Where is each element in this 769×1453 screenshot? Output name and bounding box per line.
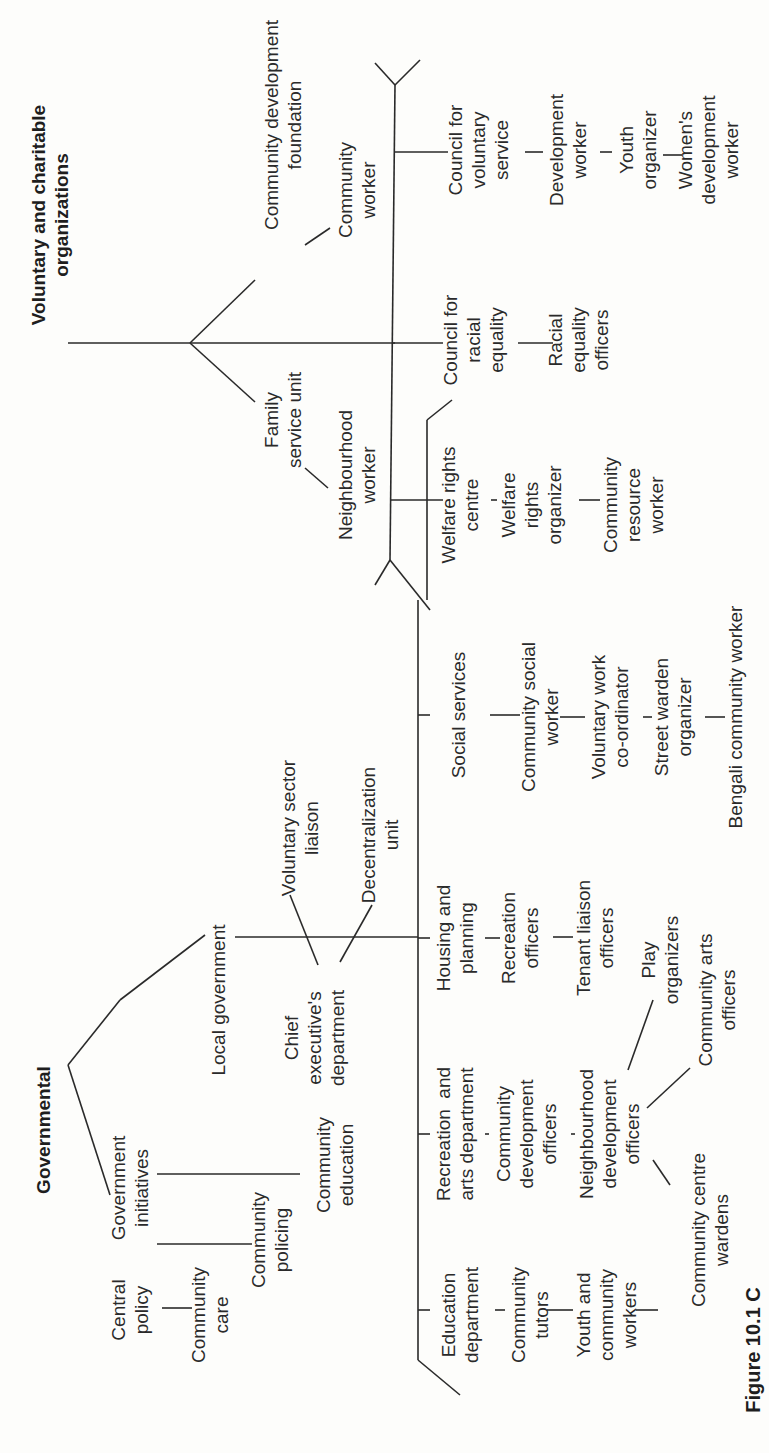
svg-text:service: service bbox=[491, 120, 512, 180]
svg-text:Recreation: Recreation bbox=[498, 892, 519, 984]
svg-text:worker: worker bbox=[646, 476, 667, 535]
svg-text:Community: Community bbox=[600, 456, 621, 553]
svg-text:Women's: Women's bbox=[675, 111, 696, 189]
svg-text:Voluntary and charitable: Voluntary and charitable bbox=[28, 105, 49, 325]
node-voluntary-sector-liaison: Voluntary sector liaison bbox=[278, 759, 322, 896]
svg-text:Tenant liaison: Tenant liaison bbox=[573, 880, 594, 996]
svg-text:Community development: Community development bbox=[261, 19, 282, 230]
node-recreation-arts-department: Recreation and arts department bbox=[433, 1067, 477, 1201]
node-family-service-unit: Family service unit bbox=[261, 371, 305, 468]
node-welfare-rights-centre: Welfare rights centre bbox=[438, 447, 482, 564]
svg-text:development: development bbox=[698, 95, 719, 205]
svg-text:Racial: Racial bbox=[545, 314, 566, 367]
svg-text:Council for: Council for bbox=[440, 294, 461, 385]
node-community-centre-wardens: Community centre wardens bbox=[688, 1153, 732, 1307]
node-youth-organizer: Youth organizer bbox=[616, 110, 660, 190]
svg-text:department: department bbox=[461, 1266, 482, 1363]
svg-text:workers: workers bbox=[619, 1282, 640, 1350]
node-youth-and-community-workers: Youth and community workers bbox=[573, 1269, 640, 1361]
svg-text:Play: Play bbox=[638, 941, 659, 978]
svg-text:education: education bbox=[336, 1124, 357, 1206]
svg-text:Neighbourhood: Neighbourhood bbox=[335, 410, 356, 540]
svg-text:care: care bbox=[211, 1297, 232, 1334]
svg-text:service unit: service unit bbox=[284, 371, 305, 468]
node-education-department: Education department bbox=[438, 1266, 482, 1363]
svg-text:Social services: Social services bbox=[448, 652, 469, 779]
svg-text:Education: Education bbox=[438, 1273, 459, 1358]
svg-text:Council for: Council for bbox=[445, 104, 466, 195]
svg-text:organizer: organizer bbox=[674, 677, 695, 757]
svg-text:arts department: arts department bbox=[456, 1067, 477, 1201]
svg-text:Youth: Youth bbox=[616, 126, 637, 174]
svg-text:Street warden: Street warden bbox=[651, 658, 672, 776]
node-social-services: Social services bbox=[448, 652, 469, 779]
node-bengali-community-worker: Bengali community worker bbox=[725, 605, 746, 828]
svg-text:organizer: organizer bbox=[639, 110, 660, 190]
governmental-header: Governmental bbox=[33, 1066, 54, 1194]
node-womens-development-worker: Women's development worker bbox=[675, 95, 742, 205]
svg-text:officers: officers bbox=[622, 1104, 643, 1165]
svg-text:tutors: tutors bbox=[531, 1291, 552, 1339]
svg-text:wardens: wardens bbox=[711, 1194, 732, 1267]
svg-text:planning: planning bbox=[456, 902, 477, 974]
voluntary-header: Voluntary and charitable organizations bbox=[28, 105, 72, 325]
svg-text:initiatives: initiatives bbox=[131, 1149, 152, 1227]
node-council-racial-equality: Council for racial equality bbox=[440, 294, 507, 385]
svg-text:worker: worker bbox=[541, 688, 562, 747]
node-community-policing: Community policing bbox=[248, 1191, 292, 1288]
node-community-care: Community care bbox=[188, 1266, 232, 1363]
svg-text:equality: equality bbox=[568, 307, 589, 373]
svg-text:Welfare: Welfare bbox=[498, 472, 519, 537]
svg-text:Voluntary sector: Voluntary sector bbox=[278, 759, 299, 896]
node-recreation-officers: Recreation officers bbox=[498, 892, 542, 984]
svg-text:worker: worker bbox=[358, 446, 379, 505]
svg-text:executive's: executive's bbox=[304, 991, 325, 1084]
svg-text:Chief: Chief bbox=[281, 1015, 302, 1060]
svg-text:Community: Community bbox=[335, 141, 356, 238]
svg-text:Community: Community bbox=[248, 1191, 269, 1288]
svg-text:racial: racial bbox=[463, 317, 484, 362]
svg-text:development: development bbox=[516, 1079, 537, 1189]
svg-text:voluntary: voluntary bbox=[468, 111, 489, 189]
node-community-development-officers: Community development officers bbox=[493, 1079, 560, 1189]
svg-text:organizations: organizations bbox=[51, 153, 72, 277]
svg-text:Governmental: Governmental bbox=[33, 1066, 54, 1194]
svg-text:officers: officers bbox=[596, 908, 617, 969]
node-racial-equality-officers: Racial equality officers bbox=[545, 307, 612, 373]
node-street-warden-organizer: Street warden organizer bbox=[651, 658, 695, 776]
node-voluntary-work-coordinator: Voluntary work co-ordinator bbox=[588, 654, 632, 779]
node-decentralization-unit: Decentralization unit bbox=[358, 767, 402, 903]
svg-text:unit: unit bbox=[381, 819, 402, 850]
svg-text:Community centre: Community centre bbox=[688, 1153, 709, 1307]
node-community-arts-officers: Community arts officers bbox=[695, 933, 739, 1066]
svg-text:co-ordinator: co-ordinator bbox=[611, 666, 632, 768]
node-neighbourhood-worker: Neighbourhood worker bbox=[335, 410, 379, 540]
svg-text:Community: Community bbox=[188, 1266, 209, 1363]
svg-text:development: development bbox=[599, 1079, 620, 1189]
node-housing-and-planning: Housing and planning bbox=[433, 885, 477, 992]
svg-text:centre: centre bbox=[461, 479, 482, 532]
node-community-education: Community education bbox=[313, 1116, 357, 1213]
svg-text:worker: worker bbox=[569, 121, 590, 180]
svg-text:Community arts: Community arts bbox=[695, 933, 716, 1066]
node-community-resource-worker: Community resource worker bbox=[600, 456, 667, 553]
svg-text:Recreation and: Recreation and bbox=[433, 1067, 454, 1201]
svg-text:Government: Government bbox=[108, 1135, 129, 1240]
svg-text:Neighbourhood: Neighbourhood bbox=[576, 1069, 597, 1199]
svg-text:worker: worker bbox=[721, 121, 742, 180]
node-community-social-worker: Community social worker bbox=[518, 642, 562, 792]
svg-text:officers: officers bbox=[539, 1104, 560, 1165]
svg-text:Community: Community bbox=[313, 1116, 334, 1213]
node-welfare-rights-organizer: Welfare rights organizer bbox=[498, 465, 565, 545]
svg-text:worker: worker bbox=[358, 161, 379, 220]
svg-text:resource: resource bbox=[623, 468, 644, 542]
node-council-voluntary-service: Council for voluntary service bbox=[445, 104, 512, 195]
node-play-organizers: Play organizers bbox=[638, 916, 682, 1005]
node-community-development-foundation: Community development foundation bbox=[261, 19, 305, 230]
svg-text:policy: policy bbox=[131, 1285, 152, 1334]
svg-text:Central: Central bbox=[108, 1279, 129, 1340]
svg-text:officers: officers bbox=[521, 908, 542, 969]
svg-text:officers: officers bbox=[591, 310, 612, 371]
svg-text:Figure 10.1 C: Figure 10.1 C bbox=[742, 1287, 764, 1413]
svg-text:officers: officers bbox=[718, 970, 739, 1031]
